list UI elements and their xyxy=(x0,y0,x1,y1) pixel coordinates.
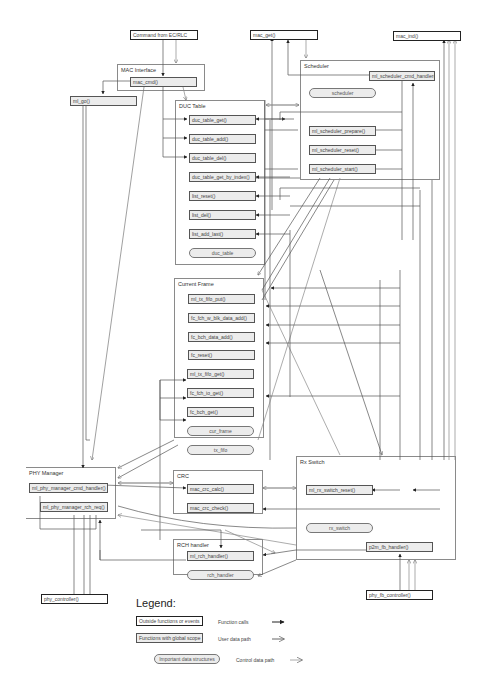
rx-switch-data-structure: rx_switch xyxy=(306,523,373,533)
fc-bch-get-function[interactable]: fc_bch_get() xyxy=(187,407,254,417)
ml-phy-manager-rch-req-function[interactable]: ml_phy_manager_rch_req() xyxy=(40,502,108,512)
ml-tx-fifo-put-function[interactable]: ml_tx_fifo_put() xyxy=(188,294,255,304)
duc-table-get-by-index-function[interactable]: duc_table_get_by_index() xyxy=(189,172,256,182)
legend-control-data-path: Control data path xyxy=(236,657,274,663)
duc-table-data-structure: duc_table xyxy=(189,248,256,258)
cur-frame-data-structure: cur_frame xyxy=(187,426,254,436)
ml-rch-handler-function[interactable]: ml_rch_handler() xyxy=(187,551,254,561)
legend-global-box: Functions with global scope xyxy=(136,633,203,643)
tx-fifo-data-structure: tx_fifo xyxy=(187,445,254,455)
phy-controller-function[interactable]: phy_controller() xyxy=(41,594,108,604)
fc-fch-io-get-function[interactable]: fc_fch_io_get() xyxy=(187,388,254,398)
legend-title: Legend: xyxy=(136,597,176,609)
list-del-function[interactable]: list_del() xyxy=(189,210,256,220)
duc-table-del-function[interactable]: duc_table_del() xyxy=(189,153,256,163)
mac-crc-check-function[interactable]: mac_crc_check() xyxy=(187,503,254,513)
mac-get-function[interactable]: mac_get() xyxy=(250,30,318,40)
mac-cmd-function[interactable]: mac_cmd() xyxy=(130,77,197,87)
legend-user-data-path: User data path xyxy=(218,636,251,642)
ml-scheduler-cmd-handler-function[interactable]: ml_scheduler_cmd_handler() xyxy=(369,71,435,81)
ml-rx-switch-reset-function[interactable]: ml_rx_switch_reset() xyxy=(306,485,373,495)
mac-architecture-diagram: MAC Interface Scheduler DUC Table Curren… xyxy=(0,0,480,689)
ml-go-function[interactable]: ml_go() xyxy=(70,96,137,106)
mac-crc-calc-function[interactable]: mac_crc_calc() xyxy=(187,484,254,494)
duc-table-get-function[interactable]: duc_table_get() xyxy=(189,115,256,125)
rch-handler-data-structure: rch_handler xyxy=(187,570,254,580)
list-reset-function[interactable]: list_reset() xyxy=(189,191,256,201)
legend-function-calls: Function calls xyxy=(218,619,249,625)
legend-outside-box: Outside functions or events xyxy=(136,616,203,626)
fc-bch-data-add-function[interactable]: fc_bch_data_add() xyxy=(188,332,255,342)
ml-phy-manager-cmd-handler-function[interactable]: ml_phy_manager_cmd_handler() xyxy=(29,483,108,493)
scheduler-data-structure: scheduler xyxy=(309,88,376,98)
mac-ind-function[interactable]: mac_ind() xyxy=(393,31,461,41)
duc-table-add-function[interactable]: duc_table_add() xyxy=(189,134,256,144)
fc-reset-function[interactable]: fc_reset() xyxy=(188,350,255,360)
ml-scheduler-prepare-function[interactable]: ml_scheduler_prepare() xyxy=(309,126,376,136)
phy-fb-controller-function[interactable]: phy_fb_controller() xyxy=(366,590,433,600)
command-from-ec-rlc[interactable]: Command from EC/RLC xyxy=(130,30,198,40)
fc-fch-w-blk-data-add-function[interactable]: fc_fch_w_blk_data_add() xyxy=(188,313,255,323)
legend-data-box: Important data structures xyxy=(154,654,220,664)
p2m-fb-handler-function[interactable]: p2m_fb_handler() xyxy=(366,542,433,552)
ml-tx-fifo-get-function[interactable]: ml_tx_fifo_get() xyxy=(187,369,254,379)
ml-scheduler-reset-function[interactable]: ml_scheduler_reset() xyxy=(309,145,376,155)
list-add-last-function[interactable]: list_add_last() xyxy=(189,229,256,239)
ml-scheduler-start-function[interactable]: ml_scheduler_start() xyxy=(309,164,376,174)
